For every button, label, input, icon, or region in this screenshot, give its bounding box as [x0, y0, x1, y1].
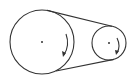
- small-pulley-center: [108, 42, 110, 44]
- belt-top-segment: [47, 10, 112, 26]
- large-pulley-center: [41, 41, 43, 43]
- large-rotation-arrow-icon: [64, 34, 68, 55]
- belt-pulley-diagram: [0, 0, 132, 83]
